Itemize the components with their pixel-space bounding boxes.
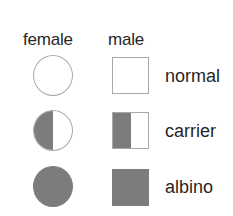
half-fill bbox=[34, 111, 53, 150]
female-carrier-symbol bbox=[33, 110, 73, 151]
half-fill bbox=[113, 113, 131, 148]
female-albino-symbol bbox=[33, 166, 73, 207]
male-albino-symbol bbox=[112, 169, 149, 206]
row-label-albino: albino bbox=[165, 176, 213, 198]
male-carrier-symbol bbox=[112, 112, 149, 149]
row-label-normal: normal bbox=[165, 65, 220, 87]
pedigree-legend: female male normal carrier albino bbox=[0, 0, 233, 216]
row-label-carrier: carrier bbox=[165, 120, 216, 142]
male-normal-symbol bbox=[112, 57, 149, 94]
column-header-male: male bbox=[108, 30, 144, 50]
column-header-female: female bbox=[23, 30, 73, 50]
female-normal-symbol bbox=[33, 55, 73, 96]
